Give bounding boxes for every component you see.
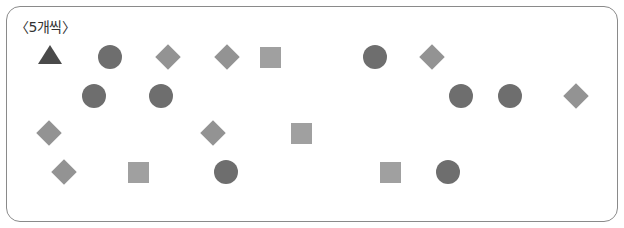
- circle-icon: [436, 160, 460, 184]
- square-icon: [380, 162, 401, 183]
- shape-panel: [6, 6, 618, 222]
- square-icon: [260, 47, 281, 68]
- grouping-label: 〈5개씩〉: [15, 16, 75, 36]
- circle-icon: [82, 84, 106, 108]
- circle-icon: [98, 45, 122, 69]
- circle-icon: [214, 160, 238, 184]
- square-icon: [128, 162, 149, 183]
- circle-icon: [449, 84, 473, 108]
- triangle-icon: [38, 45, 62, 64]
- circle-icon: [363, 45, 387, 69]
- circle-icon: [498, 84, 522, 108]
- circle-icon: [149, 84, 173, 108]
- square-icon: [291, 123, 312, 144]
